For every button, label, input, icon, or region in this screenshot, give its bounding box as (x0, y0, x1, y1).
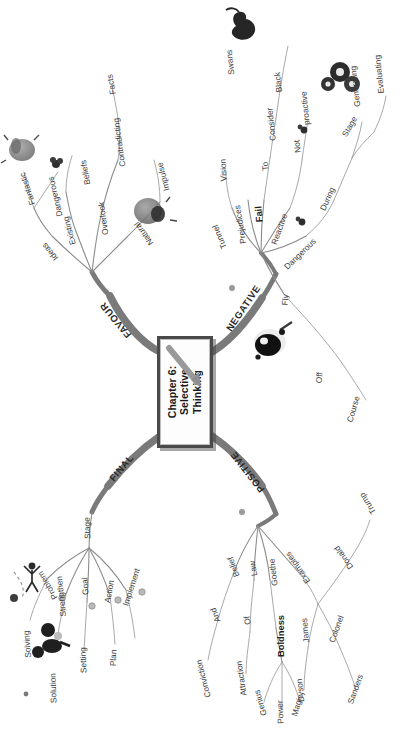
node-label-vision[interactable]: Vision (218, 158, 229, 181)
node-label-course[interactable]: Course (345, 395, 362, 424)
node-label-facts[interactable]: Facts (104, 74, 117, 96)
node-label-black[interactable]: Black (272, 71, 284, 93)
node-label-beliefs[interactable]: Beliefs (78, 159, 92, 185)
node-label-strengthen[interactable]: Strengthen (54, 575, 68, 617)
node-label-boldness[interactable]: Boldness (275, 615, 286, 657)
node-label-swans[interactable]: Swans (224, 49, 237, 75)
node-label-proactive[interactable]: proactive (298, 91, 312, 126)
node-label-stage-final[interactable]: Stage (82, 517, 93, 539)
central-title-line2: Selective (179, 369, 190, 415)
node-label-conviction[interactable]: Conviction (193, 658, 212, 698)
central-node-title: Chapter 6: Selective Thinking (167, 366, 204, 418)
node-label-reactive[interactable]: Reactive (269, 212, 290, 246)
node-label-dangerous-fav[interactable]: Dangerous (46, 176, 65, 218)
node-label-dyson[interactable]: Dyson (294, 678, 306, 703)
central-title-line3: Thinking (191, 370, 202, 414)
node-label-tunnel[interactable]: Tunnel (210, 223, 229, 250)
node-label-existing[interactable]: Existing (60, 215, 77, 246)
node-label-solving[interactable]: Solving (21, 630, 33, 658)
node-label-goethe[interactable]: Goethe (267, 558, 280, 586)
node-label-contradicting[interactable]: Contradicting (111, 117, 128, 167)
node-label-during[interactable]: During (318, 185, 337, 212)
node-label-fantastic[interactable]: Fantastic (17, 171, 37, 206)
node-label-not[interactable]: Not (291, 139, 302, 154)
node-label-evaluating[interactable]: Evaluating (372, 54, 386, 94)
node-label-examples[interactable]: Examples (283, 550, 312, 586)
node-label-solution[interactable]: Solution (47, 673, 58, 704)
node-label-of[interactable]: Of (241, 615, 252, 626)
branch-label-favour[interactable]: FAVOUR (97, 300, 133, 340)
branch-label-positive[interactable]: POSITIVE (228, 449, 267, 494)
node-label-setting[interactable]: Setting (78, 647, 89, 674)
node-label-stage-neg[interactable]: Stage (340, 114, 360, 138)
node-label-attraction[interactable]: Attraction (234, 660, 249, 696)
node-label-sanders[interactable]: Sanders (345, 673, 365, 705)
branch-label-final[interactable]: FINAL (107, 452, 136, 483)
central-title-line1: Chapter 6: (167, 366, 178, 418)
node-label-generating[interactable]: Generating (348, 65, 362, 107)
node-label-overlook[interactable]: Overlook (96, 200, 111, 235)
node-label-implement[interactable]: Implement (120, 566, 142, 607)
node-label-ideas[interactable]: Ideas (39, 241, 60, 263)
node-label-law[interactable]: Law (247, 559, 260, 577)
node-label-action[interactable]: Action (102, 579, 116, 604)
node-label-goal[interactable]: Goal (79, 577, 90, 595)
node-label-james[interactable]: James (299, 618, 311, 643)
mindmap-canvas: FAVOUR NEGATIVE FINAL POSITIVE Ideas Fan… (0, 0, 404, 738)
node-label-to[interactable]: To (260, 161, 271, 171)
node-label-off[interactable]: Off (313, 371, 324, 384)
node-label-fly[interactable]: Fly (280, 293, 291, 306)
node-label-fail[interactable]: Fail (252, 206, 264, 223)
node-label-genius[interactable]: Genius (252, 689, 269, 717)
node-label-consider[interactable]: Consider (264, 107, 277, 141)
node-label-power[interactable]: Power (275, 700, 286, 724)
node-label-belief[interactable]: Belief (225, 555, 242, 579)
node-label-trump[interactable]: Trump (357, 491, 378, 517)
node-label-and[interactable]: And (208, 606, 223, 624)
branch-label-negative[interactable]: NEGATIVE (224, 283, 263, 333)
node-label-colonel[interactable]: Colonel (327, 614, 346, 644)
central-topic-node[interactable]: Chapter 6: Selective Thinking (157, 336, 213, 448)
node-label-prejudices[interactable]: Prejudices (232, 205, 248, 245)
node-label-natural[interactable]: Natural (132, 220, 156, 248)
node-label-dangerous-neg[interactable]: Dangerous (282, 236, 318, 271)
node-label-impulse[interactable]: Impulse (155, 161, 172, 192)
node-label-plan[interactable]: Plan (108, 649, 119, 666)
node-label-donald[interactable]: Donald (332, 544, 355, 572)
